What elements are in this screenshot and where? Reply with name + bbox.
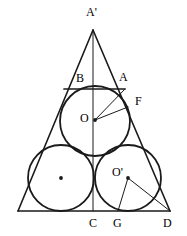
point-label-a: A	[119, 71, 128, 83]
geometry-canvas	[0, 0, 187, 236]
point-label-c: C	[89, 217, 97, 229]
radius-o-to-a	[95, 89, 125, 120]
point-label-o-prime: O'	[112, 166, 123, 178]
center-dot-oprime	[126, 176, 130, 180]
triangle-right-side	[93, 30, 170, 211]
point-label-b: B	[76, 72, 84, 84]
point-label-a-prime: A'	[86, 6, 97, 18]
center-dot-o	[93, 118, 97, 122]
center-dot-left-circle	[59, 176, 63, 180]
point-label-g: G	[113, 217, 122, 229]
point-label-f: F	[135, 95, 142, 107]
point-label-d: D	[163, 217, 172, 229]
radius-o-to-f	[95, 107, 128, 120]
radius-oprime-to-g	[118, 178, 128, 211]
geometry-figure: A'BAFOO'CGD	[0, 0, 187, 236]
point-label-o: O	[80, 112, 89, 124]
